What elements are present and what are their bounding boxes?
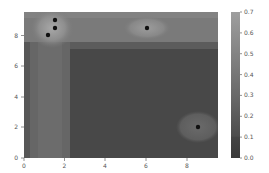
data-point <box>196 125 200 129</box>
colorbar-tick-label: 0.4 <box>244 72 254 78</box>
y-tick-label: 2 <box>6 124 18 130</box>
x-tick-label: 0 <box>22 163 26 169</box>
data-point <box>53 26 57 30</box>
x-tick-label: 6 <box>144 163 148 169</box>
heatmap-cells <box>24 8 220 158</box>
colorbar-tick-label: 0.3 <box>244 92 254 98</box>
data-point <box>145 26 149 30</box>
data-point <box>53 18 57 22</box>
colorbar-tick-label: 0.7 <box>244 9 254 15</box>
y-tick-label: 8 <box>6 33 18 39</box>
x-tick-label: 2 <box>63 163 67 169</box>
x-axis-ticks <box>24 158 187 161</box>
heatmap-plot <box>0 0 269 173</box>
colorbar-ticks <box>240 12 242 158</box>
colorbar-tick-label: 0.1 <box>244 134 254 140</box>
x-tick-label: 4 <box>103 163 107 169</box>
data-point <box>46 33 50 37</box>
y-tick-label: 4 <box>6 94 18 100</box>
heatmap-figure: 0 2 4 6 8 0 2 4 6 8 0.0 0.1 0.2 0.3 0.4 … <box>0 0 269 173</box>
y-axis-ticks <box>21 36 24 159</box>
colorbar-tick-label: 0.0 <box>244 155 254 161</box>
colorbar <box>231 12 240 158</box>
x-tick-label: 8 <box>185 163 189 169</box>
colorbar-tick-label: 0.6 <box>244 30 254 36</box>
colorbar-tick-label: 0.2 <box>244 113 254 119</box>
y-tick-label: 0 <box>6 155 18 161</box>
y-tick-label: 6 <box>6 63 18 69</box>
colorbar-tick-label: 0.5 <box>244 51 254 57</box>
